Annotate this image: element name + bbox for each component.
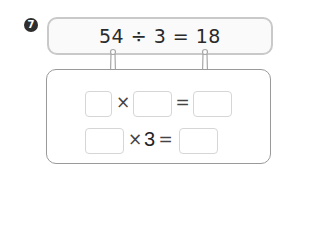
row1-input-1[interactable] bbox=[85, 91, 112, 117]
row2-input-2[interactable] bbox=[179, 128, 218, 154]
multiply-sign: × bbox=[116, 92, 130, 112]
equals-sign: = bbox=[158, 129, 173, 149]
multiply-sign: × bbox=[128, 129, 142, 149]
factor-three: 3 bbox=[144, 128, 155, 151]
row2-input-1[interactable] bbox=[85, 128, 124, 154]
row1-input-2[interactable] bbox=[133, 91, 172, 117]
equals-sign: = bbox=[175, 92, 190, 112]
row1-input-3[interactable] bbox=[193, 91, 232, 117]
